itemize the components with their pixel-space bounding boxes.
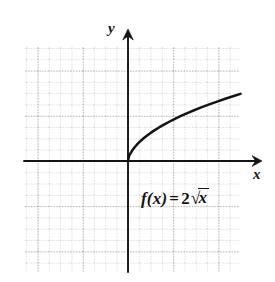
equation-equals-sign: =: [167, 189, 181, 208]
math-figure: y x f(x)=2√x: [0, 0, 275, 282]
equation-coefficient: 2: [181, 189, 190, 208]
equation-function-name: f(x): [141, 189, 167, 208]
equation-radicand: x: [198, 188, 209, 206]
radical-group: √x: [190, 189, 209, 207]
y-axis-label: y: [108, 21, 115, 36]
x-axis-label: x: [253, 167, 261, 182]
graph-canvas: [0, 0, 275, 282]
function-equation-annotation: f(x)=2√x: [141, 189, 209, 207]
grid-major: [25, 47, 241, 272]
